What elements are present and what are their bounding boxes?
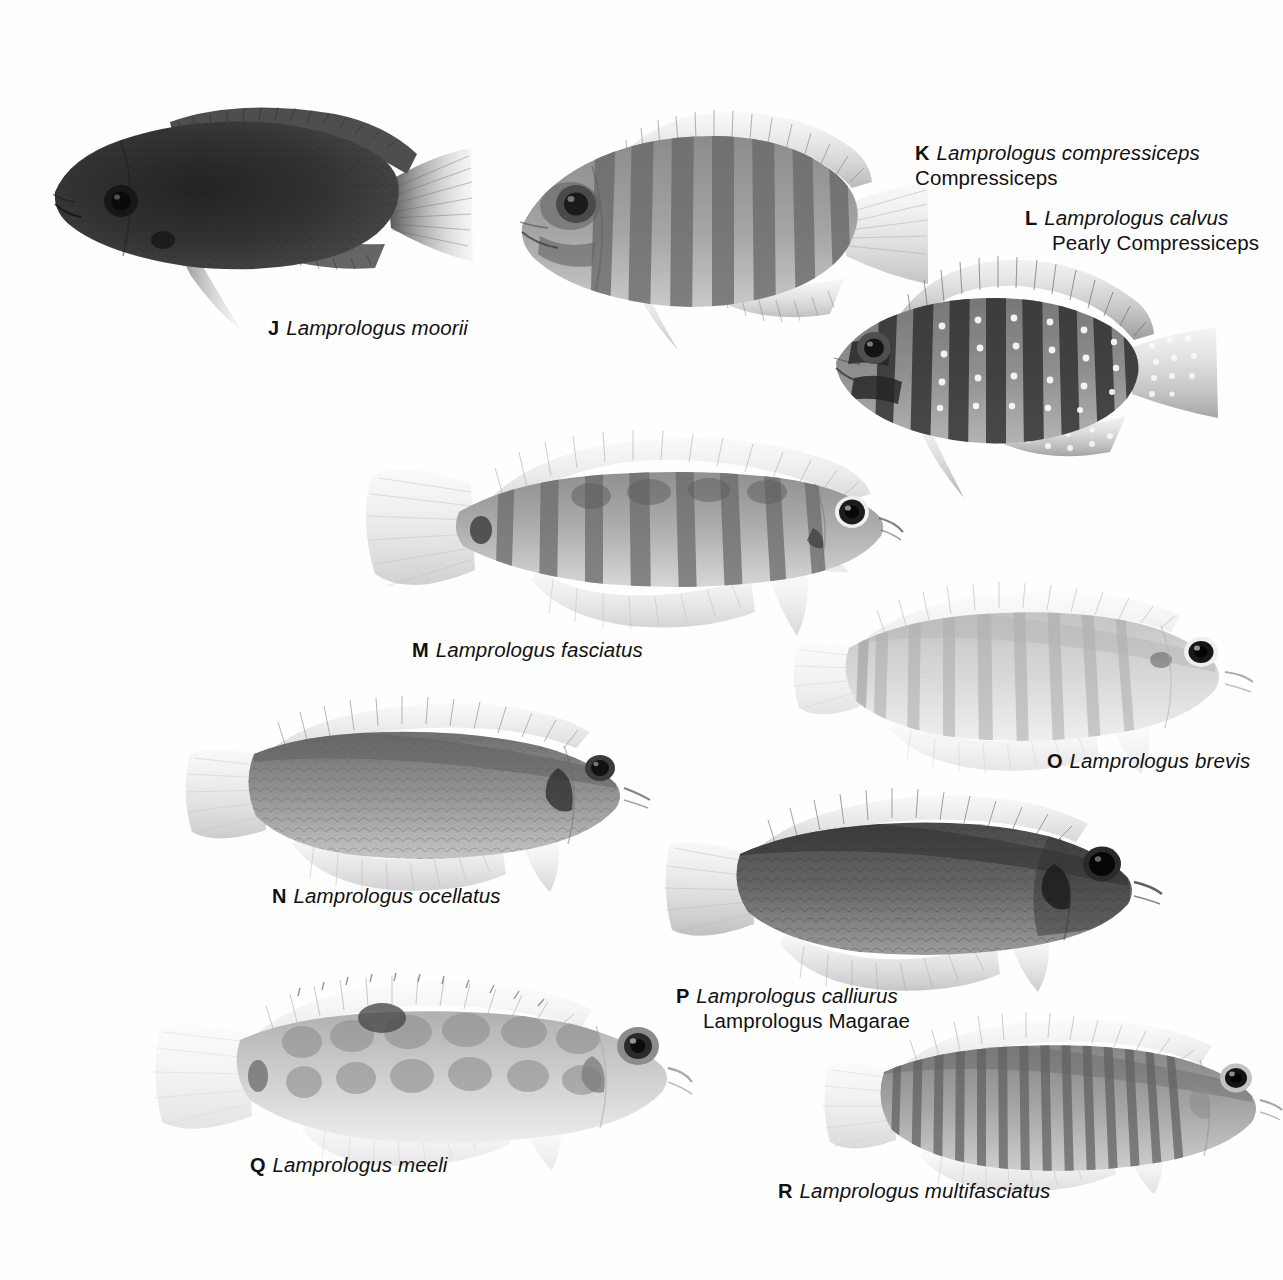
fish-illustration-n xyxy=(172,692,654,894)
label-letter-p: P xyxy=(676,985,689,1007)
label-o: OLamprologus brevis xyxy=(1047,748,1250,773)
label-j: JLamprologus moorii xyxy=(268,315,468,340)
fish-illustration-j xyxy=(35,62,475,330)
label-n: NLamprologus ocellatus xyxy=(272,883,501,908)
label-common-k: Compressiceps xyxy=(915,165,1200,190)
label-letter-q: Q xyxy=(250,1154,266,1176)
label-scientific-n: Lamprologus ocellatus xyxy=(293,884,500,907)
label-scientific-l: Lamprologus calvus xyxy=(1044,206,1228,229)
label-letter-k: K xyxy=(915,142,929,164)
label-r: RLamprologus multifasciatus xyxy=(778,1178,1050,1203)
label-scientific-r: Lamprologus multifasciatus xyxy=(799,1179,1050,1202)
label-letter-n: N xyxy=(272,885,286,907)
fish-illustration-r xyxy=(822,1012,1283,1194)
label-scientific-o: Lamprologus brevis xyxy=(1070,749,1251,772)
label-letter-o: O xyxy=(1047,750,1063,772)
fish-illustration-o xyxy=(793,572,1255,774)
fish-illustration-q xyxy=(152,972,694,1170)
label-letter-r: R xyxy=(778,1180,792,1202)
label-p: PLamprologus calliurus Lamprologus Magar… xyxy=(676,983,910,1033)
label-scientific-p: Lamprologus calliurus xyxy=(696,984,898,1007)
label-common-p: Lamprologus Magarae xyxy=(676,1008,910,1033)
label-letter-l: L xyxy=(1025,207,1037,229)
label-l: LLamprologus calvus Pearly Compressiceps xyxy=(1025,205,1259,255)
label-q: QLamprologus meeli xyxy=(250,1152,447,1177)
label-letter-m: M xyxy=(412,639,429,661)
plate-canvas: JLamprologus moorii KLamprologus compres… xyxy=(0,0,1283,1280)
fish-illustration-p xyxy=(662,782,1164,994)
label-common-l: Pearly Compressiceps xyxy=(1025,230,1259,255)
label-scientific-m: Lamprologus fasciatus xyxy=(436,638,643,661)
label-scientific-j: Lamprologus moorii xyxy=(286,316,468,339)
label-k: KLamprologus compressiceps Compressiceps xyxy=(915,140,1200,190)
label-scientific-k: Lamprologus compressiceps xyxy=(936,141,1199,164)
label-scientific-q: Lamprologus meeli xyxy=(273,1153,448,1176)
label-letter-j: J xyxy=(268,317,279,339)
label-m: MLamprologus fasciatus xyxy=(412,637,643,662)
